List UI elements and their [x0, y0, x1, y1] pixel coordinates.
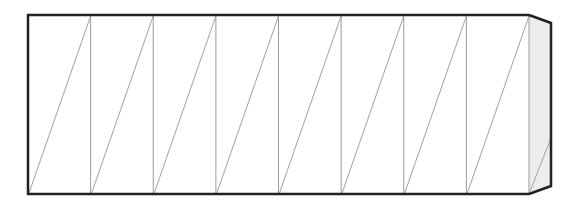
end-cap [529, 15, 551, 194]
segment-diagonal [342, 16, 404, 193]
segments [29, 15, 529, 194]
segment-diagonal [405, 16, 467, 193]
segment-diagonal [280, 16, 342, 193]
segment-diagonal [467, 16, 529, 193]
segment-diagonal [154, 16, 216, 193]
segment-diagonal [29, 16, 91, 193]
outline [28, 15, 551, 194]
segmented-prism-diagram [0, 0, 580, 201]
segment-diagonal [92, 16, 154, 193]
segment-diagonal [217, 16, 279, 193]
